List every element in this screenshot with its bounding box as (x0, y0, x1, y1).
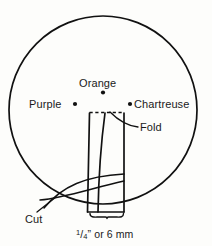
strip-inner-edge (98, 113, 105, 212)
fraction-denominator: 4 (83, 232, 87, 241)
measurement-metric: or 6 mm (91, 228, 133, 240)
measure-bracket (90, 214, 124, 219)
chartreuse-point-dot (128, 102, 132, 106)
purple-point-dot (73, 102, 77, 106)
label-measurement: 1/4” or 6 mm (76, 229, 133, 241)
label-orange: Orange (79, 78, 116, 89)
label-cut: Cut (25, 214, 42, 225)
label-chartreuse: Chartreuse (134, 99, 189, 110)
label-purple: Purple (29, 99, 61, 110)
label-fold: Fold (140, 122, 162, 133)
measurement-fraction: 1/4 (76, 229, 88, 241)
cut-curve-lower (40, 181, 124, 200)
figure-svg (0, 0, 212, 246)
orange-point-dot (101, 90, 105, 94)
strip-left-edge (88, 113, 90, 212)
diagram-canvas: Orange Purple Chartreuse Fold Cut 1/4” o… (0, 0, 212, 246)
